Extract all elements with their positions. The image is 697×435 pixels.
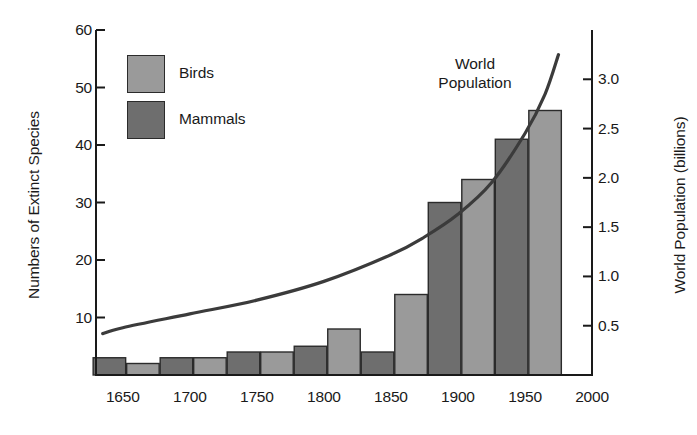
x-tick-label-1650: 1650 [106, 388, 140, 406]
bar-birds-1665 [127, 364, 160, 376]
bar-mammals-1840 [361, 352, 394, 375]
x-axis-tick-labels: 16501700175018001850190019502000 [0, 384, 697, 410]
x-tick-label-1700: 1700 [173, 388, 207, 406]
legend-label-birds: Birds [179, 64, 214, 82]
world-population-annotation: World Population [415, 54, 535, 92]
y-tick-label-right-1: 1.0 [598, 267, 619, 285]
world-population-annotation-line1: World [415, 54, 535, 73]
bar-birds-1715 [194, 358, 227, 375]
bar-mammals-1890 [428, 203, 461, 376]
y-axis-tick-labels-left: 102030405060 [40, 0, 92, 435]
y-tick-label-right-2: 2.0 [598, 169, 619, 187]
bar-birds-1815 [328, 329, 361, 375]
y-tick-label-right-3: 3.0 [598, 70, 619, 88]
y-axis-title-right: World Population (billions) [671, 81, 689, 329]
y-tick-label-right-0.5: 0.5 [598, 317, 619, 335]
y-tick-label-left-30: 30 [75, 194, 92, 212]
x-tick-label-1750: 1750 [240, 388, 274, 406]
bar-mammals-1790 [294, 346, 327, 375]
bar-birds-1965 [529, 111, 562, 376]
bar-mammals-1690 [160, 358, 193, 375]
chart-plot-area [0, 0, 697, 435]
world-population-annotation-line2: Population [415, 73, 535, 92]
y-tick-label-left-10: 10 [75, 309, 92, 327]
legend-label-mammals: Mammals [179, 110, 245, 128]
x-tick-label-1800: 1800 [307, 388, 341, 406]
legend-swatch-mammals [127, 101, 165, 139]
bar-birds-1765 [261, 352, 294, 375]
bar-mammals-1740 [227, 352, 260, 375]
y-tick-label-left-40: 40 [75, 136, 92, 154]
chart-figure: Numbers of Extinct Species World Populat… [0, 0, 697, 435]
bar-mammals-1640 [93, 358, 126, 375]
x-tick-label-1950: 1950 [508, 388, 542, 406]
bar-birds-1865 [395, 295, 428, 376]
y-tick-label-left-50: 50 [75, 79, 92, 97]
x-tick-label-1850: 1850 [374, 388, 408, 406]
bar-mammals-1940 [495, 139, 528, 375]
y-axis-tick-labels-right: 0.51.01.52.02.53.0 [598, 0, 658, 435]
y-tick-label-right-2.5: 2.5 [598, 120, 619, 138]
y-tick-label-left-60: 60 [75, 21, 92, 39]
x-tick-label-1900: 1900 [441, 388, 475, 406]
x-tick-label-2000: 2000 [575, 388, 609, 406]
y-tick-label-right-1.5: 1.5 [598, 218, 619, 236]
legend-swatch-birds [127, 55, 165, 93]
bar-group [93, 111, 561, 376]
y-tick-label-left-20: 20 [75, 251, 92, 269]
